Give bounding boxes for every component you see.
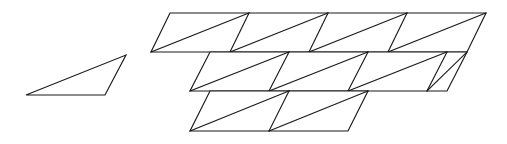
tessellation-row-middle xyxy=(190,52,467,91)
tessellation-row-top xyxy=(151,13,486,52)
row-middle-face xyxy=(190,52,467,91)
figure-root xyxy=(0,0,507,144)
figure-canvas xyxy=(0,0,507,144)
tessellation-row-bottom xyxy=(190,91,368,131)
